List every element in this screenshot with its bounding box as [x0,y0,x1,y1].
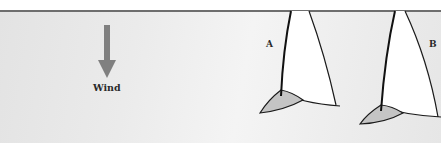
boat-b-label: B [429,39,437,49]
sailing-diagram: Wind A B [0,0,441,143]
boat-a-label: A [266,39,273,49]
wind-arrow-icon [98,25,116,78]
boat-b-sail [381,11,438,117]
boat-b [360,11,441,124]
wind-label: Wind [93,82,121,93]
diagram-canvas [0,0,441,143]
boat-a [260,11,340,113]
